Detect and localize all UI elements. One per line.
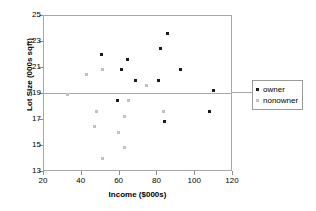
y-tick-label: 13: [32, 166, 41, 175]
y-tick-label: 23: [32, 36, 41, 45]
data-point-owner: [126, 58, 129, 61]
data-point-owner: [116, 99, 119, 102]
data-point-nonowner: [101, 157, 104, 160]
x-tick: [156, 171, 157, 175]
data-point-owner: [120, 68, 123, 71]
data-point-owner: [166, 32, 169, 35]
data-point-owner: [163, 120, 166, 123]
data-point-owner: [159, 47, 162, 50]
data-point-nonowner: [145, 84, 148, 87]
data-point-owner: [212, 89, 215, 92]
data-point-nonowner: [101, 68, 104, 71]
data-point-nonowner: [123, 115, 126, 118]
x-tick-label: 40: [76, 176, 85, 185]
x-tick: [194, 171, 195, 175]
scatter-chart-figure: Lot Size (000s sqft) Income ($000s) 1315…: [0, 0, 316, 211]
data-point-nonowner: [123, 146, 126, 149]
x-axis-title: Income ($000s): [43, 190, 232, 199]
y-tick-label: 21: [32, 62, 41, 71]
data-point-nonowner: [95, 110, 98, 113]
data-point-owner: [179, 68, 182, 71]
y-tick-label: 15: [32, 140, 41, 149]
data-point-nonowner: [85, 73, 88, 76]
legend-item-owner: owner: [256, 84, 298, 95]
x-tick-label: 80: [152, 176, 161, 185]
legend-label: owner: [263, 85, 285, 95]
x-tick: [119, 171, 120, 175]
y-tick-label: 19: [32, 88, 41, 97]
data-point-nonowner: [162, 110, 165, 113]
data-point-nonowner: [66, 93, 69, 96]
x-tick: [81, 171, 82, 175]
data-point-owner: [157, 79, 160, 82]
chart-legend: ownernonowner: [252, 80, 303, 110]
data-point-owner: [208, 110, 211, 113]
legend-connector: [232, 92, 252, 93]
reference-line: [43, 93, 232, 94]
legend-marker-icon: [256, 88, 259, 91]
y-tick-label: 25: [32, 10, 41, 19]
legend-marker-icon: [256, 99, 259, 102]
legend-item-nonowner: nonowner: [256, 95, 298, 106]
x-tick-label: 20: [39, 176, 48, 185]
y-axis-title: Lot Size (000s sqft): [25, 0, 34, 155]
x-tick: [43, 171, 44, 175]
data-point-owner: [100, 53, 103, 56]
x-tick-label: 120: [225, 176, 238, 185]
data-point-nonowner: [127, 99, 130, 102]
y-tick-label: 17: [32, 114, 41, 123]
data-point-owner: [134, 79, 137, 82]
legend-label: nonowner: [263, 96, 298, 106]
x-tick: [232, 171, 233, 175]
data-point-nonowner: [93, 125, 96, 128]
x-tick-label: 60: [114, 176, 123, 185]
data-point-nonowner: [117, 131, 120, 134]
x-tick-label: 100: [188, 176, 201, 185]
